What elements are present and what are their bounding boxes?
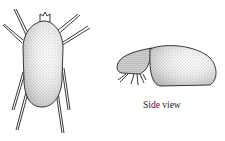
mite-illustration: Side view [0, 0, 225, 141]
side-view-label: Side view [143, 100, 181, 110]
mite-top-view [3, 9, 90, 133]
mite-drawing [0, 0, 225, 141]
mite-side-view [117, 46, 216, 86]
